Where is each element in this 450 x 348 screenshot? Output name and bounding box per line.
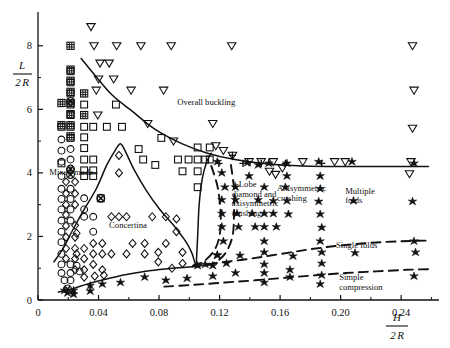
data-point — [58, 261, 65, 268]
data-point — [201, 260, 210, 268]
data-point — [408, 125, 416, 132]
region-label-line: Simple — [339, 272, 364, 282]
region-label-line: diamond and — [232, 189, 277, 199]
data-point — [105, 60, 113, 67]
data-point — [90, 213, 97, 220]
svg-text:2R: 2R — [390, 329, 404, 341]
region-label-mixed-mode: Mixed mode — [49, 167, 93, 177]
data-point — [149, 213, 156, 221]
data-point — [73, 229, 80, 237]
data-point — [271, 171, 279, 178]
data-point — [108, 250, 115, 258]
data-point — [272, 223, 281, 231]
data-point — [58, 99, 65, 106]
data-point — [99, 239, 106, 247]
region-label-concertina: Concertina — [109, 220, 147, 230]
series-overall-buckling-triangle — [87, 24, 418, 179]
data-point — [67, 156, 74, 163]
data-point — [67, 217, 74, 224]
data-point — [90, 260, 97, 268]
data-point — [90, 239, 97, 247]
region-label-line: Mixed mode — [49, 167, 93, 177]
svg-text:H: H — [392, 311, 402, 323]
data-point — [316, 237, 325, 245]
series-open-square — [58, 68, 213, 202]
data-point — [260, 248, 269, 256]
data-point — [67, 196, 74, 203]
data-point — [116, 278, 125, 286]
data-point — [260, 260, 269, 268]
data-point — [115, 151, 122, 159]
data-point — [58, 196, 65, 203]
data-point — [87, 24, 95, 31]
series-grid-square — [58, 42, 88, 140]
data-point — [81, 156, 88, 163]
svg-text:L: L — [18, 59, 25, 71]
data-point — [227, 43, 235, 50]
data-point — [81, 245, 88, 253]
data-point — [185, 156, 192, 163]
data-point — [317, 223, 326, 231]
data-point — [67, 206, 74, 213]
data-point — [58, 228, 65, 235]
data-point — [264, 159, 273, 167]
data-point — [97, 194, 105, 202]
data-point — [284, 210, 293, 218]
data-point — [92, 87, 100, 94]
data-point — [67, 185, 74, 192]
region-label-line: 2-Lobe — [232, 179, 257, 189]
data-point — [137, 43, 145, 50]
data-point — [58, 158, 65, 165]
data-point — [158, 135, 165, 142]
data-point — [317, 248, 326, 256]
data-point — [231, 269, 240, 277]
data-point — [99, 250, 106, 258]
data-point — [411, 248, 420, 256]
data-point — [109, 76, 117, 83]
data-point — [260, 223, 269, 231]
x-tick-label: 0.16 — [271, 307, 289, 318]
data-point — [408, 197, 417, 205]
data-point — [58, 270, 65, 277]
data-point — [113, 101, 120, 108]
data-point — [173, 215, 180, 223]
data-point — [112, 43, 120, 50]
data-point — [81, 123, 88, 130]
data-point — [219, 237, 228, 245]
data-point — [81, 90, 88, 97]
x-tick-label: 0.04 — [89, 307, 108, 318]
data-point — [119, 123, 126, 130]
data-point — [81, 255, 88, 263]
data-point — [58, 217, 65, 224]
data-point — [314, 197, 323, 205]
data-point — [260, 237, 269, 245]
data-point — [67, 146, 74, 153]
data-point — [179, 168, 186, 175]
data-point — [155, 258, 162, 266]
y-tick-label: 8 — [27, 40, 32, 51]
overall-buckling-boundary — [81, 58, 428, 166]
data-point — [58, 239, 65, 246]
data-point — [140, 273, 149, 281]
region-label-line: crushing — [277, 193, 307, 203]
data-point — [141, 250, 148, 258]
data-point — [58, 122, 65, 129]
data-point — [155, 248, 162, 256]
region-label-line: compression — [339, 282, 383, 292]
data-point — [179, 248, 186, 256]
data-point — [236, 251, 245, 259]
y-tick-label: 4 — [27, 167, 33, 178]
y-tick-label: 6 — [27, 104, 32, 115]
data-point — [206, 144, 213, 151]
data-point — [330, 159, 338, 166]
data-point — [90, 43, 98, 50]
x-tick-label: 0.20 — [331, 307, 349, 318]
data-point — [316, 172, 325, 180]
data-point — [167, 43, 175, 50]
data-point — [123, 250, 130, 258]
data-point — [410, 87, 418, 94]
data-point — [341, 159, 349, 166]
svg-text:2R: 2R — [15, 76, 29, 88]
region-label-single-folds: Single folds — [336, 240, 378, 250]
data-point — [269, 209, 278, 217]
